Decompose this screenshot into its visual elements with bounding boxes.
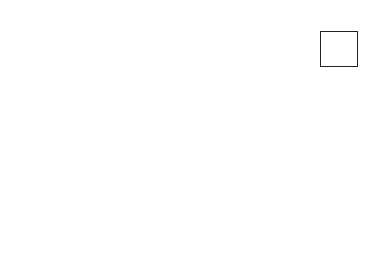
doubling-cube[interactable]	[320, 31, 358, 67]
